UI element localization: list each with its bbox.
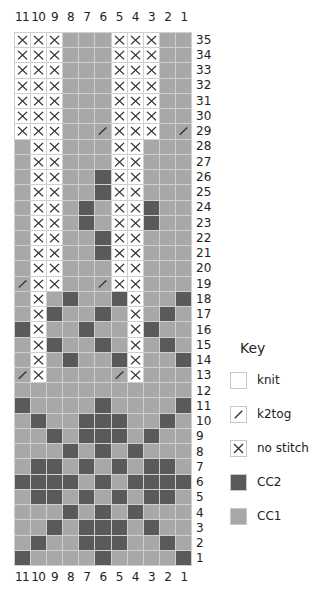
chart-cell-no-stitch — [128, 322, 143, 336]
chart-cell-cc1 — [160, 383, 175, 397]
chart-cell-cc1 — [95, 201, 110, 215]
slash-icon — [230, 406, 247, 423]
chart-cell-no-stitch — [31, 368, 46, 382]
chart-cell-cc2 — [79, 216, 94, 230]
chart-cell-no-stitch — [47, 48, 62, 62]
row-label: 32 — [194, 78, 211, 93]
chart-cell-cc1 — [95, 33, 110, 47]
chart-cell-no-stitch — [128, 338, 143, 352]
chart-cell-no-stitch — [112, 201, 127, 215]
chart-cell-cc2 — [47, 429, 62, 443]
chart-cell-no-stitch — [31, 261, 46, 275]
row-label: 34 — [194, 47, 211, 62]
chart-cell-cc2 — [79, 429, 94, 443]
column-label: 8 — [63, 10, 79, 24]
chart-cell-cc1 — [176, 520, 191, 534]
chart-cell-cc1 — [144, 536, 159, 550]
chart-cell-cc2 — [47, 490, 62, 504]
chart-cell-cc2 — [95, 414, 110, 428]
chart-cell-cc1 — [63, 185, 78, 199]
chart-cell-cc1 — [63, 140, 78, 154]
chart-cell-cc1 — [144, 231, 159, 245]
chart-cell-cc1 — [79, 124, 94, 138]
chart-cell-cc1 — [176, 459, 191, 473]
chart-cell-cc1 — [160, 140, 175, 154]
chart-cell-cc1 — [63, 231, 78, 245]
chart-cell-cc1 — [160, 398, 175, 412]
chart-cell-cc1 — [79, 33, 94, 47]
row-label: 11 — [194, 398, 211, 413]
chart-cell-no-stitch — [47, 63, 62, 77]
chart-cell-cc2 — [160, 414, 175, 428]
chart-cell-cc1 — [95, 261, 110, 275]
chart-cell-cc1 — [144, 155, 159, 169]
chart-cell-cc1 — [47, 398, 62, 412]
chart-grid — [14, 32, 192, 566]
chart-cell-cc1 — [144, 368, 159, 382]
chart-cell-no-stitch — [47, 231, 62, 245]
chart-cell-cc2 — [47, 307, 62, 321]
chart-cell-cc1 — [95, 490, 110, 504]
chart-cell-cc1 — [160, 505, 175, 519]
chart-cell-no-stitch — [128, 277, 143, 291]
chart-cell-cc1 — [176, 414, 191, 428]
chart-cell-cc1 — [63, 536, 78, 550]
chart-cell-cc1 — [176, 63, 191, 77]
column-labels-top: 1110987654321 — [14, 10, 192, 24]
chart-cell-cc1 — [144, 338, 159, 352]
chart-cell-cc1 — [112, 307, 127, 321]
chart-cell-no-stitch — [31, 94, 46, 108]
chart-cell-cc1 — [95, 292, 110, 306]
chart-cell-cc1 — [160, 124, 175, 138]
chart-cell-no-stitch — [15, 124, 30, 138]
chart-cell-cc1 — [176, 261, 191, 275]
x-icon — [230, 440, 247, 457]
column-label: 10 — [30, 570, 46, 584]
chart-cell-cc1 — [128, 459, 143, 473]
chart-cell-cc2 — [95, 505, 110, 519]
chart-cell-cc1 — [79, 383, 94, 397]
legend-label: CC1 — [257, 509, 281, 523]
chart-cell-no-stitch — [128, 216, 143, 230]
chart-cell-cc1 — [160, 79, 175, 93]
chart-cell-cc2 — [160, 459, 175, 473]
chart-cell-no-stitch — [31, 185, 46, 199]
chart-cell-cc2 — [95, 231, 110, 245]
chart-cell-k2tog — [176, 124, 191, 138]
chart-cell-cc1 — [95, 368, 110, 382]
column-label: 3 — [144, 570, 160, 584]
chart-cell-cc1 — [63, 48, 78, 62]
chart-cell-no-stitch — [31, 246, 46, 260]
chart-cell-no-stitch — [112, 109, 127, 123]
chart-cell-cc1 — [144, 307, 159, 321]
chart-cell-k2tog — [112, 368, 127, 382]
chart-cell-cc1 — [160, 63, 175, 77]
chart-cell-no-stitch — [128, 261, 143, 275]
chart-cell-cc2 — [128, 444, 143, 458]
chart-cell-cc1 — [95, 216, 110, 230]
chart-cell-cc1 — [15, 201, 30, 215]
chart-cell-cc1 — [47, 292, 62, 306]
swatch-icon — [230, 474, 247, 491]
chart-cell-cc2 — [112, 414, 127, 428]
column-label: 6 — [95, 570, 111, 584]
chart-cell-cc1 — [95, 109, 110, 123]
chart-cell-no-stitch — [128, 292, 143, 306]
chart-cell-cc1 — [160, 246, 175, 260]
chart-cell-cc1 — [128, 414, 143, 428]
chart-cell-cc1 — [128, 490, 143, 504]
chart-cell-cc1 — [79, 505, 94, 519]
chart-cell-cc1 — [79, 292, 94, 306]
row-label: 10 — [194, 413, 211, 428]
chart-cell-cc1 — [112, 398, 127, 412]
chart-cell-cc1 — [176, 383, 191, 397]
legend-item-k2tog: k2tog — [230, 404, 309, 424]
chart-cell-cc2 — [31, 459, 46, 473]
chart-cell-cc1 — [144, 444, 159, 458]
chart-cell-cc1 — [95, 459, 110, 473]
chart-cell-cc1 — [95, 48, 110, 62]
chart-cell-cc1 — [160, 277, 175, 291]
chart-cell-cc1 — [176, 94, 191, 108]
chart-cell-no-stitch — [31, 48, 46, 62]
chart-cell-cc1 — [15, 505, 30, 519]
